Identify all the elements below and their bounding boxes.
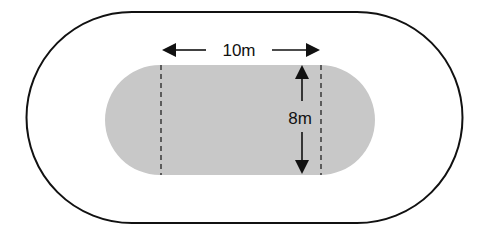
length-label: 10m xyxy=(222,41,255,60)
width-label: 8m xyxy=(288,109,312,128)
stadium-diagram: 10m 8m xyxy=(0,0,485,235)
inner-field xyxy=(105,65,375,175)
